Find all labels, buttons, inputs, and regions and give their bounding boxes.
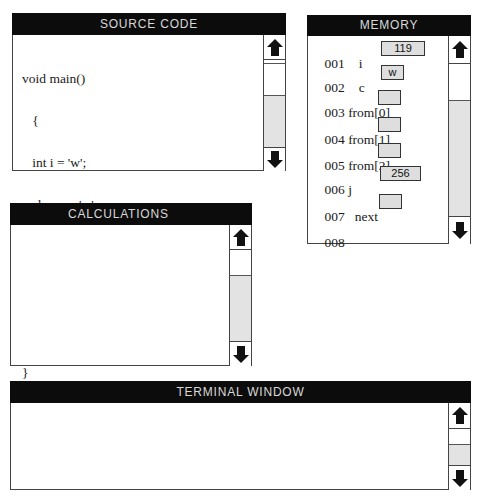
- memory-panel: MEMORY 001i 119 002c w 003 from[0] 004 f…: [307, 15, 471, 244]
- terminal-content[interactable]: [15, 406, 444, 487]
- code-line: void main(): [22, 72, 104, 86]
- arrow-down-icon: [266, 150, 284, 169]
- memory-variable: next: [355, 209, 378, 224]
- scroll-thumb[interactable]: [264, 64, 285, 96]
- source-code-title: SOURCE CODE: [12, 13, 286, 35]
- memory-value-box: 119: [381, 41, 425, 56]
- calculations-title: CALCULATIONS: [10, 203, 252, 225]
- source-code-panel: SOURCE CODE void main() { int i = 'w'; c…: [12, 13, 286, 171]
- memory-row: 008: [311, 219, 345, 267]
- memory-value-box: [378, 90, 401, 105]
- arrow-down-icon: [451, 469, 469, 488]
- scroll-up-button[interactable]: [449, 403, 470, 429]
- memory-title: MEMORY: [307, 15, 471, 36]
- code-line: {: [22, 114, 104, 128]
- scroll-up-button[interactable]: [449, 36, 470, 64]
- memory-scrollbar[interactable]: [448, 36, 470, 243]
- scroll-track[interactable]: [449, 101, 470, 216]
- memory-value-box: [379, 194, 402, 209]
- calculations-title-text: CALCULATIONS: [68, 207, 169, 221]
- scroll-track[interactable]: [264, 96, 285, 147]
- scroll-down-button[interactable]: [449, 465, 470, 490]
- scroll-track[interactable]: [230, 276, 251, 341]
- terminal-title: TERMINAL WINDOW: [10, 381, 471, 403]
- scroll-track[interactable]: [449, 445, 470, 465]
- memory-address: 008: [325, 235, 345, 250]
- memory-value-box: [378, 143, 401, 158]
- arrow-down-icon: [451, 221, 469, 240]
- calculations-scrollbar[interactable]: [229, 225, 251, 365]
- arrow-up-icon: [451, 40, 469, 59]
- memory-value-box: 256: [380, 166, 421, 181]
- code-line: }: [22, 366, 104, 380]
- arrow-up-icon: [451, 406, 469, 425]
- source-code-scrollbar[interactable]: [263, 35, 285, 170]
- scroll-down-button[interactable]: [230, 341, 251, 366]
- memory-value-box: [378, 117, 401, 132]
- scroll-up-button[interactable]: [230, 225, 251, 250]
- scroll-down-button[interactable]: [264, 147, 285, 171]
- scroll-thumb[interactable]: [449, 64, 470, 101]
- arrow-down-icon: [232, 345, 250, 364]
- code-line: int i = 'w';: [22, 156, 104, 170]
- memory-value-box: w: [381, 65, 404, 80]
- scroll-down-button[interactable]: [449, 216, 470, 244]
- arrow-up-icon: [232, 228, 250, 247]
- terminal-scrollbar[interactable]: [448, 403, 470, 489]
- terminal-panel: TERMINAL WINDOW: [10, 381, 471, 490]
- calculations-panel: CALCULATIONS: [10, 203, 252, 366]
- calculations-content: [15, 228, 225, 363]
- scroll-up-button[interactable]: [264, 35, 285, 60]
- scroll-thumb[interactable]: [230, 250, 251, 276]
- arrow-up-icon: [266, 38, 284, 57]
- scroll-thumb[interactable]: [449, 429, 470, 445]
